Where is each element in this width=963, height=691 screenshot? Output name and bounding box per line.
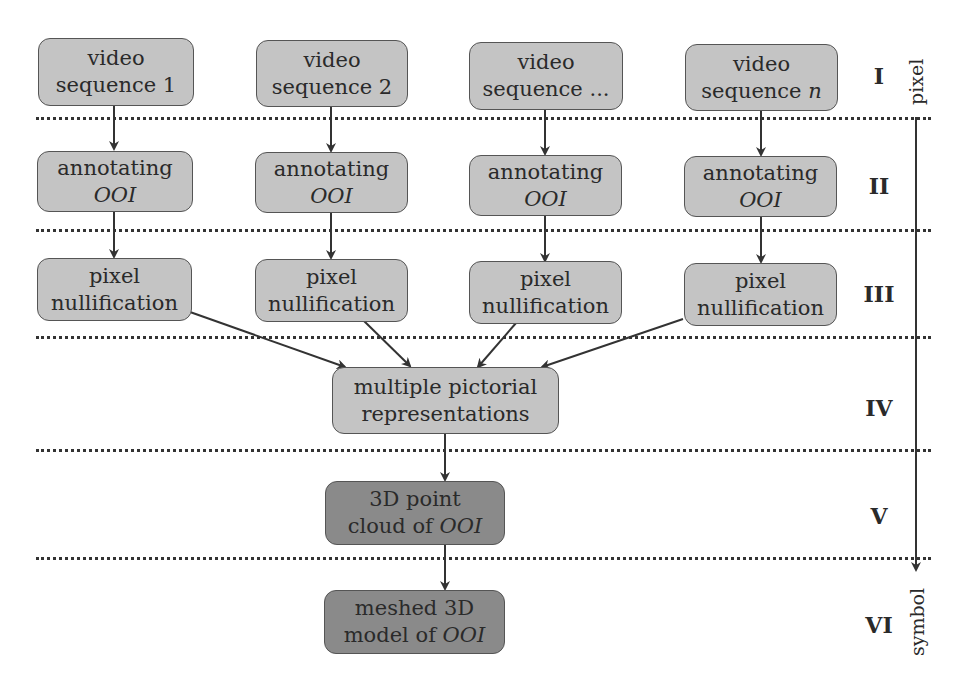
node-label-line1: 3D point	[369, 486, 461, 513]
node-label-line2: sequence n	[701, 78, 822, 105]
stage-label-3: III	[849, 281, 909, 307]
node-label-line1: annotating	[274, 156, 389, 183]
node-label-line1: video	[517, 49, 574, 76]
stage-label-1: I	[849, 63, 909, 89]
video-sequence-ellipsis-node: video sequence ...	[469, 42, 623, 110]
node-label-line1: annotating	[57, 155, 172, 182]
node-label-line2: cloud of OOI	[348, 513, 483, 540]
node-label-line2: nullification	[268, 291, 395, 318]
stage-label-4: IV	[849, 395, 909, 421]
stage-label-6: VI	[849, 612, 909, 638]
node-label-line2: OOI	[310, 183, 353, 210]
node-label-line1: pixel	[89, 263, 140, 290]
separator-5	[36, 557, 931, 560]
video-sequence-1-node: video sequence 1	[38, 38, 194, 106]
pixel-nullification-node-1: pixel nullification	[37, 258, 192, 321]
annotating-ooi-node-3: annotating OOI	[469, 155, 622, 216]
separator-1	[36, 117, 931, 120]
node-label-line1: pixel	[735, 268, 786, 295]
node-label-line2: sequence 1	[56, 72, 176, 99]
video-sequence-2-node: video sequence 2	[256, 40, 408, 107]
video-sequence-n-node: video sequence n	[685, 44, 838, 111]
node-label-line1: annotating	[488, 159, 603, 186]
separator-3	[36, 336, 931, 339]
annotating-ooi-node-n: annotating OOI	[684, 156, 837, 217]
separator-2	[36, 229, 931, 232]
node-label-line2: nullification	[482, 293, 609, 320]
pixel-nullification-node-n: pixel nullification	[684, 263, 837, 326]
pixel-nullification-node-2: pixel nullification	[255, 259, 408, 322]
node-label-line2: OOI	[739, 187, 782, 214]
label-text: model of	[344, 623, 443, 647]
node-label-line1: video	[733, 51, 790, 78]
label-text: cloud of	[348, 514, 440, 538]
stage-label-5: V	[849, 503, 909, 529]
separator-4	[36, 449, 931, 452]
label-math: n	[808, 79, 822, 103]
node-label-line2: representations	[361, 401, 529, 428]
node-label-line1: meshed 3D	[355, 595, 474, 622]
pixel-nullification-node-3: pixel nullification	[469, 261, 622, 324]
annotating-ooi-node-2: annotating OOI	[255, 152, 408, 213]
node-label-line2: sequence 2	[272, 74, 392, 101]
annotating-ooi-node-1: annotating OOI	[37, 151, 193, 212]
multiple-pictorial-representations-node: multiple pictorial representations	[332, 367, 559, 434]
stage-label-2: II	[849, 173, 909, 199]
meshed-model-node: meshed 3D model of OOI	[324, 590, 505, 654]
axis-label-symbol: symbol	[906, 587, 928, 657]
node-label-line1: annotating	[703, 160, 818, 187]
node-label-line2: OOI	[94, 182, 137, 209]
node-label-line2: OOI	[524, 186, 567, 213]
node-label-line1: pixel	[520, 266, 571, 293]
label-math: OOI	[440, 514, 483, 538]
label-text: sequence	[701, 79, 808, 103]
node-label-line2: model of OOI	[344, 622, 486, 649]
node-label-line1: video	[303, 47, 360, 74]
node-label-line1: pixel	[306, 264, 357, 291]
axis-label-pixel: pixel	[905, 59, 927, 105]
node-label-line2: nullification	[697, 295, 824, 322]
node-label-line2: nullification	[51, 290, 178, 317]
node-label-line1: video	[87, 45, 144, 72]
node-label-line1: multiple pictorial	[354, 374, 538, 401]
point-cloud-node: 3D point cloud of OOI	[325, 481, 505, 545]
label-math: OOI	[443, 623, 486, 647]
node-label-line2: sequence ...	[482, 76, 609, 103]
